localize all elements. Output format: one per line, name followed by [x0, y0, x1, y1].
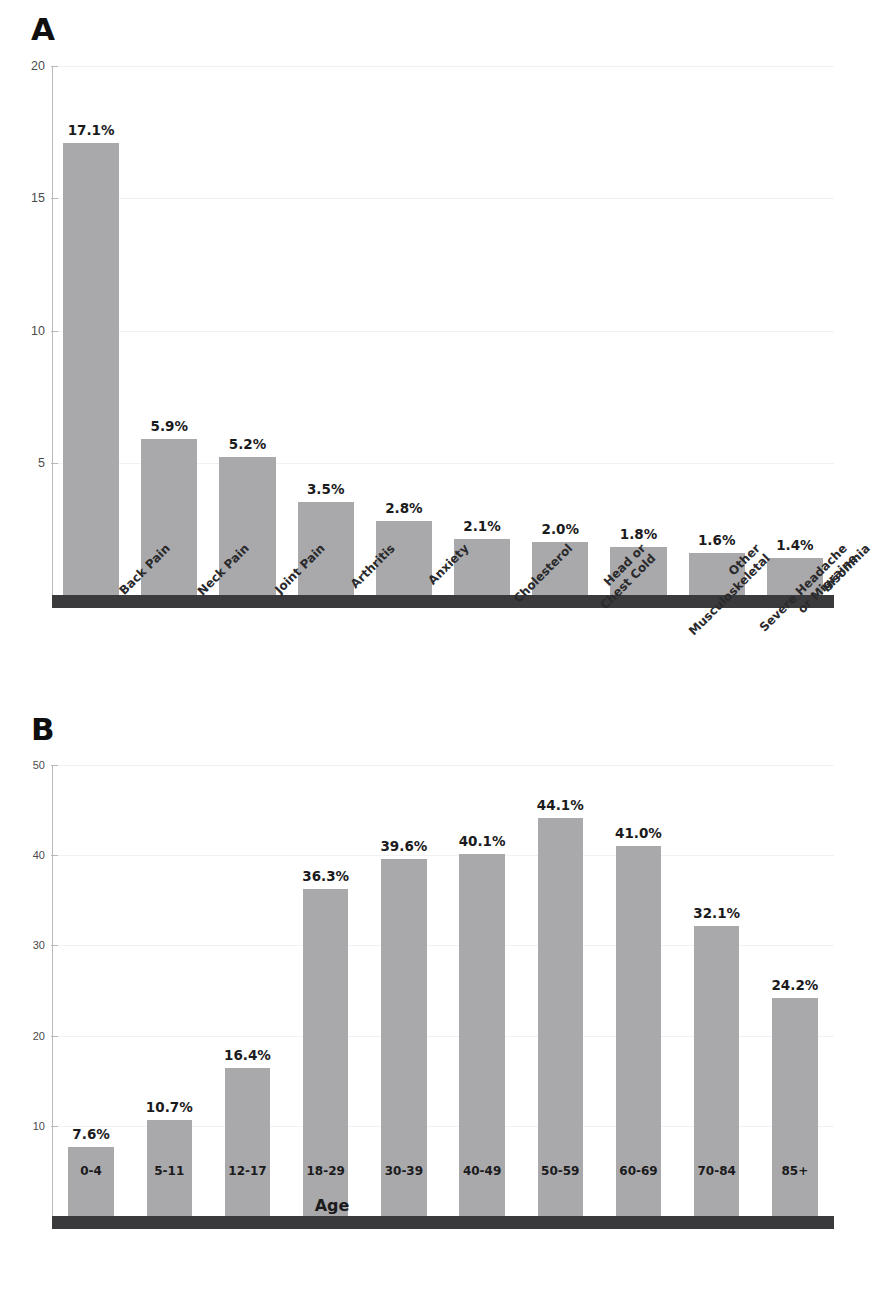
- bar-value-label: 39.6%: [380, 838, 427, 854]
- bar-value-label: 5.9%: [151, 418, 188, 434]
- x-axis-label: 0-4: [52, 1164, 130, 1178]
- bar-value-label: 16.4%: [224, 1047, 271, 1063]
- x-axis-label: Joint Pain: [273, 542, 328, 597]
- bar-group[interactable]: 1.6%: [689, 66, 745, 595]
- bar[interactable]: [459, 854, 504, 1216]
- y-tick-label: 20: [33, 1030, 45, 1042]
- x-label-line: Cholesterol: [511, 541, 575, 605]
- bar-group[interactable]: 41.0%: [616, 765, 661, 1216]
- bar-value-label: 2.1%: [463, 518, 500, 534]
- y-tick-label: 50: [33, 759, 45, 771]
- bar-value-label: 32.1%: [693, 905, 740, 921]
- x-label-line: Neck Pain: [195, 541, 252, 598]
- bar-group[interactable]: 24.2%: [772, 765, 817, 1216]
- bar-group[interactable]: 1.4%: [767, 66, 823, 595]
- bar-group[interactable]: 10.7%: [147, 765, 192, 1216]
- y-tick-label: 20: [31, 59, 45, 73]
- x-axis-label: 50-59: [521, 1164, 599, 1178]
- bar-value-label: 41.0%: [615, 825, 662, 841]
- x-label-line: Back Pain: [116, 541, 172, 597]
- y-tick-label: 10: [33, 1120, 45, 1132]
- bar-group[interactable]: 39.6%: [381, 765, 426, 1216]
- bar-value-label: 2.0%: [542, 521, 579, 537]
- panel-b-bars: 7.6%10.7%16.4%36.3%39.6%40.1%44.1%41.0%3…: [52, 765, 834, 1216]
- x-axis-label: 30-39: [365, 1164, 443, 1178]
- bar-value-label: 24.2%: [771, 977, 818, 993]
- bar[interactable]: [381, 859, 426, 1216]
- panel-a-bars: 17.1%5.9%5.2%3.5%2.8%2.1%2.0%1.8%1.6%1.4…: [52, 66, 834, 595]
- x-axis-label: Anxiety: [426, 542, 472, 588]
- bar-value-label: 3.5%: [307, 481, 344, 497]
- y-tick-label: 15: [31, 191, 45, 205]
- x-label-line: Anxiety: [425, 541, 471, 587]
- x-axis-label: Back Pain: [117, 542, 173, 598]
- bar-group[interactable]: 2.0%: [532, 66, 588, 595]
- bar-group[interactable]: 32.1%: [694, 765, 739, 1216]
- bar-group[interactable]: 40.1%: [459, 765, 504, 1216]
- bar-group[interactable]: 7.6%: [68, 765, 113, 1216]
- bar-group[interactable]: 5.9%: [141, 66, 197, 595]
- panel-b-axis-title: Age: [52, 1196, 612, 1215]
- bar-value-label: 40.1%: [459, 833, 506, 849]
- bar-value-label: 7.6%: [72, 1126, 109, 1142]
- bar-value-label: 10.7%: [146, 1099, 193, 1115]
- bar-group[interactable]: 1.8%: [610, 66, 666, 595]
- x-axis-label: Head orChest Cold: [588, 542, 658, 612]
- bar[interactable]: [63, 143, 119, 595]
- bar-group[interactable]: 3.5%: [298, 66, 354, 595]
- panel-b: B 1020304050 7.6%10.7%16.4%36.3%39.6%40.…: [0, 700, 850, 1302]
- bar[interactable]: [616, 846, 661, 1216]
- panel-a-letter: A: [31, 14, 55, 45]
- bar-value-label: 44.1%: [537, 797, 584, 813]
- bar-group[interactable]: 16.4%: [225, 765, 270, 1216]
- x-axis-label: Arthritis: [349, 542, 399, 592]
- x-label-line: Joint Pain: [272, 541, 328, 597]
- bar-group[interactable]: 44.1%: [538, 765, 583, 1216]
- x-axis-label: 18-29: [287, 1164, 365, 1178]
- x-axis-label: 60-69: [599, 1164, 677, 1178]
- bar-value-label: 36.3%: [302, 868, 349, 884]
- x-label-line: Arthritis: [348, 541, 398, 591]
- panel-a: A 5101520 17.1%5.9%5.2%3.5%2.8%2.1%2.0%1…: [0, 0, 850, 710]
- panel-b-x-axis-labels: 0-45-1112-1718-2930-3940-4950-5960-6970-…: [52, 1164, 834, 1224]
- x-axis-label: 12-17: [208, 1164, 286, 1178]
- x-axis-label: 5-11: [130, 1164, 208, 1178]
- bar-group[interactable]: 36.3%: [303, 765, 348, 1216]
- x-axis-label: 85+: [756, 1164, 834, 1178]
- y-tick-label: 5: [38, 456, 45, 470]
- bar-value-label: 17.1%: [68, 122, 115, 138]
- panel-b-plot-area: 1020304050 7.6%10.7%16.4%36.3%39.6%40.1%…: [52, 765, 834, 1216]
- x-axis-label: Neck Pain: [196, 542, 253, 599]
- bar-value-label: 2.8%: [385, 500, 422, 516]
- x-axis-label: 40-49: [443, 1164, 521, 1178]
- bar-group[interactable]: 2.1%: [454, 66, 510, 595]
- bar[interactable]: [538, 818, 583, 1216]
- bar-group[interactable]: 5.2%: [219, 66, 275, 595]
- bar-group[interactable]: 17.1%: [63, 66, 119, 595]
- panel-a-x-axis-labels: Back PainNeck PainJoint PainArthritisAnx…: [52, 542, 834, 692]
- y-tick-label: 40: [33, 849, 45, 861]
- bar-group[interactable]: 2.8%: [376, 66, 432, 595]
- panel-b-letter: B: [31, 714, 55, 745]
- panel-a-plot-area: 5101520 17.1%5.9%5.2%3.5%2.8%2.1%2.0%1.8…: [52, 66, 834, 595]
- x-axis-label: 70-84: [678, 1164, 756, 1178]
- bar-value-label: 5.2%: [229, 436, 266, 452]
- y-tick-label: 30: [33, 939, 45, 951]
- bar-value-label: 1.8%: [620, 526, 657, 542]
- y-tick-label: 10: [31, 324, 45, 338]
- x-axis-label: Cholesterol: [511, 542, 575, 606]
